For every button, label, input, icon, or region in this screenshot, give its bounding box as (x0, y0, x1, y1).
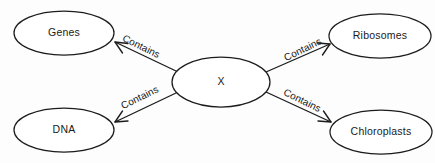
edge-label-contains: Contains (119, 83, 160, 111)
node-genes[interactable]: Genes (14, 11, 114, 55)
edge-center-to-chloroplasts: Contains (266, 86, 331, 122)
edge-center-to-dna: Contains (115, 83, 176, 122)
edge-label-contains: Contains (282, 86, 323, 114)
node-center-x[interactable]: X (172, 57, 270, 107)
node-label-dna: DNA (53, 123, 76, 135)
concept-map-diagram: Contains Contains Contains Contains Gene… (0, 0, 435, 163)
node-dna[interactable]: DNA (14, 108, 114, 152)
node-chloroplasts[interactable]: Chloroplasts (330, 110, 432, 154)
node-label-x: X (217, 75, 224, 87)
node-label-genes: Genes (48, 26, 80, 38)
edge-label-contains: Contains (121, 32, 162, 60)
node-label-ribosomes: Ribosomes (353, 29, 407, 41)
concept-map-canvas: Contains Contains Contains Contains Gene… (0, 0, 435, 163)
node-label-chloroplasts: Chloroplasts (351, 125, 412, 137)
edge-center-to-genes: Contains (115, 32, 176, 71)
edge-center-to-ribosomes: Contains (266, 35, 330, 72)
node-ribosomes[interactable]: Ribosomes (329, 14, 431, 58)
